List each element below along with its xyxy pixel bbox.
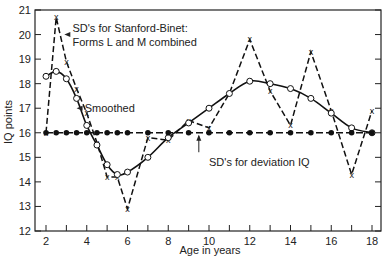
x-marker: x — [248, 34, 253, 44]
filled-circle-marker — [308, 130, 314, 136]
open-circle-marker — [145, 154, 151, 160]
open-circle-marker — [43, 73, 49, 79]
open-circle-marker — [288, 86, 294, 92]
filled-circle-marker — [186, 130, 192, 136]
open-circle-marker — [267, 81, 273, 87]
x-axis-label: Age in years — [179, 244, 241, 256]
x-tick-label: 4 — [84, 235, 90, 247]
x-marker: x — [74, 84, 79, 94]
open-circle-marker — [53, 68, 59, 74]
x-tick-label: 12 — [244, 235, 256, 247]
x-tick-label: 16 — [325, 235, 337, 247]
filled-circle-marker — [206, 130, 212, 136]
filled-circle-marker — [94, 130, 100, 136]
x-marker: x — [288, 120, 293, 130]
open-circle-marker — [328, 110, 334, 116]
filled-circle-marker — [267, 130, 273, 136]
filled-circle-marker — [53, 130, 59, 136]
open-circle-marker — [226, 90, 232, 96]
filled-circle-marker — [328, 130, 334, 136]
annotation-text: Forms L and M combined — [72, 36, 196, 48]
y-tick-label: 14 — [19, 176, 31, 188]
annotation-text: SD's for Stanford-Binet: — [72, 22, 187, 34]
open-circle-marker — [84, 122, 90, 128]
x-marker: x — [105, 172, 110, 182]
y-tick-label: 18 — [19, 78, 31, 90]
y-tick-label: 19 — [19, 53, 31, 65]
y-axis-label: IQ points — [2, 99, 14, 144]
y-tick-label: 12 — [19, 225, 31, 237]
filled-circle-marker — [349, 130, 355, 136]
filled-circle-marker — [115, 130, 121, 136]
open-circle-marker — [63, 76, 69, 82]
open-circle-marker — [206, 105, 212, 111]
open-circle-marker — [125, 169, 131, 175]
y-tick-label: 16 — [19, 127, 31, 139]
arrowhead — [196, 135, 201, 141]
open-circle-marker — [74, 95, 80, 101]
y-tick-label: 21 — [19, 4, 31, 16]
annotation-text: Smoothed — [85, 102, 135, 114]
x-tick-label: 14 — [284, 235, 296, 247]
filled-circle-marker — [145, 130, 151, 136]
filled-circle-marker — [125, 130, 131, 136]
x-marker: x — [64, 57, 69, 67]
x-marker: x — [54, 12, 59, 22]
filled-circle-marker — [369, 130, 375, 136]
open-circle-marker — [165, 135, 171, 141]
arrowhead — [64, 32, 70, 37]
y-tick-label: 13 — [19, 200, 31, 212]
x-tick-label: 6 — [124, 235, 130, 247]
open-circle-marker — [94, 142, 100, 148]
filled-circle-marker — [288, 130, 294, 136]
annotations: SD's for Stanford-Binet:Forms L and M co… — [64, 22, 310, 169]
filled-circle-marker — [165, 130, 171, 136]
open-circle-marker — [186, 120, 192, 126]
y-tick-label: 17 — [19, 102, 31, 114]
open-circle-marker — [104, 162, 110, 168]
open-circle-marker — [308, 95, 314, 101]
filled-circle-marker — [104, 130, 110, 136]
filled-circle-marker — [64, 130, 70, 136]
open-circle-marker — [114, 172, 120, 178]
line-chart: 2468101214161812131415161718192021 xxxxx… — [0, 0, 389, 262]
filled-circle-marker — [43, 130, 49, 136]
x-tick-label: 2 — [43, 235, 49, 247]
x-marker: x — [309, 47, 314, 57]
open-circle-marker — [349, 125, 355, 131]
x-tick-label: 18 — [366, 235, 378, 247]
y-tick-label: 20 — [19, 29, 31, 41]
x-marker: x — [370, 106, 375, 116]
x-marker: x — [349, 170, 354, 180]
annotation-text: SD's for deviation IQ — [209, 156, 310, 168]
filled-circle-marker — [227, 130, 233, 136]
filled-circle-marker — [247, 130, 253, 136]
open-circle-marker — [247, 78, 253, 84]
filled-circle-marker — [74, 130, 80, 136]
x-marker: x — [125, 204, 130, 214]
y-tick-label: 15 — [19, 151, 31, 163]
x-tick-label: 8 — [165, 235, 171, 247]
x-marker: x — [268, 86, 273, 96]
filled-circle-marker — [84, 130, 90, 136]
